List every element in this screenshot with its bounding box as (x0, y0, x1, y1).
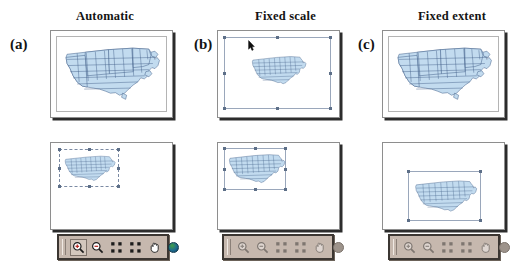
selection-box-b-map[interactable] (224, 148, 286, 190)
column-title-automatic: Automatic (45, 9, 165, 24)
resize-handle-ne[interactable] (284, 147, 287, 150)
resize-handle-nw[interactable] (223, 36, 226, 39)
map-graphic-usa[interactable] (227, 151, 287, 189)
layout-frame-b-after[interactable] (217, 142, 340, 230)
selection-box-c-map[interactable] (408, 171, 481, 221)
resize-handle-e[interactable] (329, 72, 332, 75)
map-graphic-usa[interactable] (394, 42, 495, 106)
globe-icon (499, 242, 510, 253)
map-navigation-toolbar-a[interactable] (57, 234, 169, 260)
map-graphic-usa[interactable] (413, 177, 479, 218)
resize-handle-w[interactable] (223, 72, 226, 75)
fixed-zoom-out-button[interactable] (127, 239, 144, 256)
fixed-zoom-out-button[interactable] (292, 239, 309, 256)
figure-map-frame-resize-behaviors: Automatic Fixed scale Fixed extent (a) (… (0, 0, 522, 278)
zoom-to-extent-button[interactable] (273, 239, 290, 256)
toolbar-grip[interactable] (62, 239, 66, 255)
resize-handle-se[interactable] (479, 219, 482, 222)
resize-handle-w[interactable] (223, 168, 226, 171)
magnifier-minus-icon (256, 241, 269, 254)
resize-handle-n[interactable] (276, 36, 279, 39)
zoom-to-extent-button[interactable] (439, 239, 456, 256)
zoom-out-button[interactable] (89, 239, 106, 256)
panel-letter-a: (a) (10, 36, 28, 53)
resize-handle-sw[interactable] (58, 185, 61, 188)
zoom-out-button[interactable] (254, 239, 271, 256)
layout-frame-c-before[interactable] (382, 30, 505, 118)
hand-icon (148, 241, 161, 254)
zoom-to-extent-button[interactable] (108, 239, 125, 256)
resize-handle-ne[interactable] (117, 148, 120, 151)
resize-handle-sw[interactable] (223, 188, 226, 191)
column-title-fixed-scale: Fixed scale (228, 9, 343, 24)
magnifier-plus-icon (72, 241, 85, 254)
toolbar-grip[interactable] (227, 239, 231, 255)
layout-frame-a-before[interactable] (50, 30, 173, 118)
layout-frame-a-after[interactable] (50, 142, 173, 230)
map-navigation-toolbar-c[interactable] (388, 234, 500, 260)
four-corners-in-icon (110, 241, 123, 254)
four-corners-in-icon (275, 241, 288, 254)
magnifier-minus-icon (91, 241, 104, 254)
pan-button[interactable] (477, 239, 494, 256)
map-graphic-usa[interactable] (63, 153, 117, 186)
toolbar-grip[interactable] (393, 239, 397, 255)
magnifier-minus-icon (422, 241, 435, 254)
magnifier-plus-icon (403, 241, 416, 254)
pan-button[interactable] (146, 239, 163, 256)
zoom-in-button[interactable] (401, 239, 418, 256)
resize-handle-nw[interactable] (223, 147, 226, 150)
layout-frame-b-before[interactable] (217, 30, 340, 118)
resize-handle-se[interactable] (117, 185, 120, 188)
globe-icon (333, 242, 344, 253)
layout-frame-c-after[interactable] (382, 142, 505, 230)
magnifier-plus-icon (237, 241, 250, 254)
resize-handle-se[interactable] (329, 107, 332, 110)
resize-handle-ne[interactable] (329, 36, 332, 39)
map-navigation-toolbar-b[interactable] (222, 234, 334, 260)
full-extent-button[interactable] (330, 239, 347, 256)
zoom-in-button[interactable] (70, 239, 87, 256)
resize-handle-n[interactable] (254, 147, 257, 150)
four-corners-in-icon (441, 241, 454, 254)
four-corners-out-icon (129, 241, 142, 254)
fixed-zoom-out-button[interactable] (458, 239, 475, 256)
resize-handle-nw[interactable] (58, 148, 61, 151)
pan-button[interactable] (311, 239, 328, 256)
column-title-fixed-extent: Fixed extent (392, 9, 512, 24)
map-graphic-usa[interactable] (250, 53, 308, 90)
panel-letter-b: (b) (194, 36, 212, 53)
four-corners-out-icon (294, 241, 307, 254)
full-extent-button[interactable] (496, 239, 513, 256)
four-corners-out-icon (460, 241, 473, 254)
map-graphic-usa[interactable] (62, 42, 163, 106)
globe-icon (168, 242, 179, 253)
zoom-in-button[interactable] (235, 239, 252, 256)
resize-handle-sw[interactable] (407, 219, 410, 222)
panel-letter-c: (c) (358, 36, 375, 53)
zoom-out-button[interactable] (420, 239, 437, 256)
hand-icon (313, 241, 326, 254)
resize-handle-nw[interactable] (407, 170, 410, 173)
resize-handle-s[interactable] (276, 107, 279, 110)
resize-handle-ne[interactable] (479, 170, 482, 173)
selection-box-a[interactable] (59, 149, 119, 187)
resize-handle-n[interactable] (88, 148, 91, 151)
full-extent-button[interactable] (165, 239, 182, 256)
resize-handle-w[interactable] (58, 167, 61, 170)
resize-handle-sw[interactable] (223, 107, 226, 110)
hand-icon (479, 241, 492, 254)
resize-handle-e[interactable] (117, 167, 120, 170)
mouse-cursor-icon (248, 37, 255, 48)
